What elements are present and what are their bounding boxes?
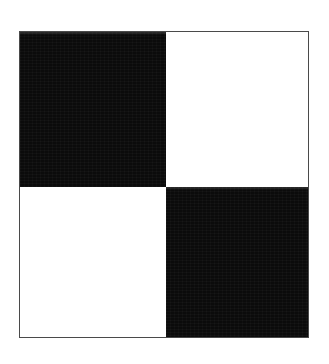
checkerboard-frame xyxy=(19,31,309,338)
quadrant-top-right xyxy=(166,32,309,187)
quadrant-top-left xyxy=(20,32,166,187)
quadrant-bottom-right xyxy=(166,187,309,338)
checkerboard-grid xyxy=(20,32,308,337)
quadrant-bottom-left xyxy=(20,187,166,338)
figure-canvas xyxy=(0,0,329,364)
